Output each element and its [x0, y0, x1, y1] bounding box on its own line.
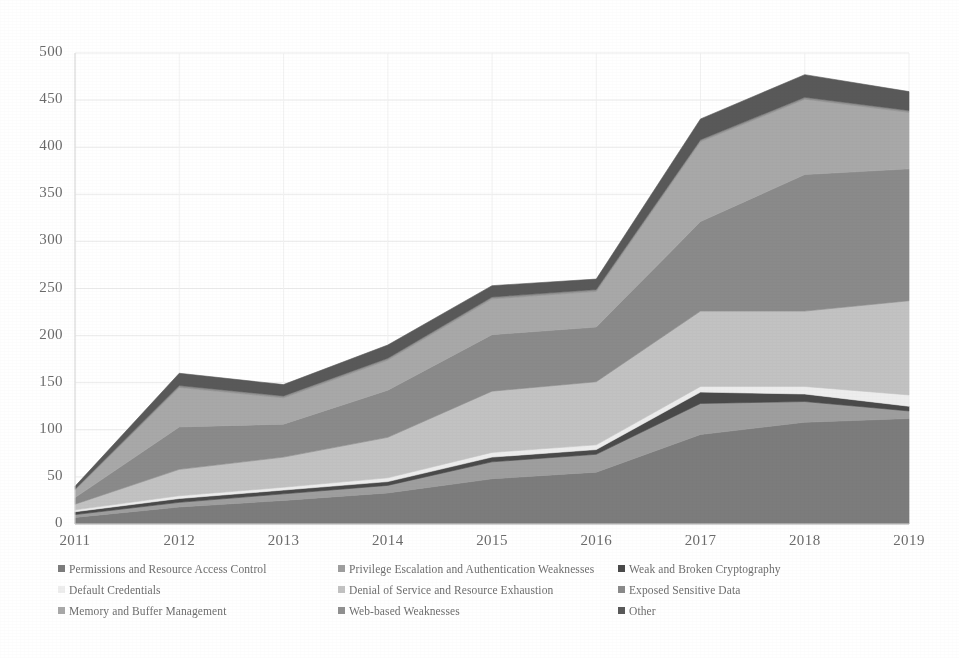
legend-swatch-icon: [338, 586, 345, 593]
x-axis-tick-label: 2012: [149, 532, 209, 549]
x-axis-tick-label: 2013: [254, 532, 314, 549]
legend-swatch-icon: [618, 607, 625, 614]
legend-swatch-icon: [618, 565, 625, 572]
legend-swatch-icon: [338, 607, 345, 614]
x-axis-tick-label: 2011: [45, 532, 105, 549]
x-axis-tick-label: 2019: [879, 532, 939, 549]
legend-item[interactable]: Memory and Buffer Management: [58, 605, 338, 617]
legend-item[interactable]: Default Credentials: [58, 584, 338, 596]
legend-item[interactable]: Other: [618, 605, 898, 617]
legend-item-label: Permissions and Resource Access Control: [69, 563, 266, 575]
y-axis-tick-label: 0: [19, 514, 63, 531]
y-axis-tick-label: 200: [19, 326, 63, 343]
legend-item-label: Default Credentials: [69, 584, 161, 596]
legend-swatch-icon: [58, 586, 65, 593]
y-axis-tick-label: 300: [19, 231, 63, 248]
x-axis-tick-label: 2016: [566, 532, 626, 549]
legend-item[interactable]: Permissions and Resource Access Control: [58, 563, 338, 575]
legend-item[interactable]: Web-based Weaknesses: [338, 605, 618, 617]
chart-legend: Permissions and Resource Access ControlP…: [58, 558, 918, 621]
x-axis-tick-label: 2017: [671, 532, 731, 549]
y-axis-tick-label: 150: [19, 373, 63, 390]
x-axis-tick-label: 2018: [775, 532, 835, 549]
legend-swatch-icon: [338, 565, 345, 572]
y-axis-tick-label: 250: [19, 279, 63, 296]
y-axis-tick-label: 500: [19, 43, 63, 60]
legend-item-label: Denial of Service and Resource Exhaustio…: [349, 584, 553, 596]
legend-swatch-icon: [618, 586, 625, 593]
legend-item-label: Other: [629, 605, 656, 617]
legend-item-label: Web-based Weaknesses: [349, 605, 460, 617]
legend-item[interactable]: Weak and Broken Cryptography: [618, 563, 898, 575]
legend-item[interactable]: Privilege Escalation and Authentication …: [338, 563, 618, 575]
y-axis-tick-label: 350: [19, 184, 63, 201]
stacked-area-chart: 500450400350300250200150100500 201120122…: [0, 0, 959, 658]
y-axis-tick-label: 100: [19, 420, 63, 437]
y-axis-tick-label: 50: [19, 467, 63, 484]
y-axis-tick-label: 450: [19, 90, 63, 107]
x-axis-tick-label: 2015: [462, 532, 522, 549]
y-axis-tick-label: 400: [19, 137, 63, 154]
legend-swatch-icon: [58, 565, 65, 572]
legend-item-label: Privilege Escalation and Authentication …: [349, 563, 594, 575]
legend-item[interactable]: Denial of Service and Resource Exhaustio…: [338, 584, 618, 596]
x-axis-tick-label: 2014: [358, 532, 418, 549]
legend-item-label: Exposed Sensitive Data: [629, 584, 740, 596]
legend-item[interactable]: Exposed Sensitive Data: [618, 584, 898, 596]
legend-item-label: Weak and Broken Cryptography: [629, 563, 781, 575]
legend-item-label: Memory and Buffer Management: [69, 605, 226, 617]
legend-swatch-icon: [58, 607, 65, 614]
